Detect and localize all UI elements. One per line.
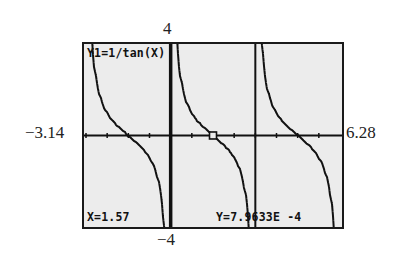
x-min-label: −3.14 — [25, 124, 64, 141]
y-min-label: −4 — [157, 231, 175, 248]
trace-cursor — [210, 132, 217, 139]
trace-x-readout: X=1.57 — [87, 212, 130, 224]
y-max-label: 4 — [163, 20, 172, 37]
graph-plot — [84, 44, 342, 227]
x-max-label: 6.28 — [346, 124, 376, 141]
function-label: Y1=1/tan(X) — [87, 48, 165, 60]
trace-y-readout: Y=7.9633E -4 — [216, 212, 301, 224]
calculator-graph-screen: Y1=1/tan(X) X=1.57 Y=7.9633E -4 — [82, 42, 344, 229]
